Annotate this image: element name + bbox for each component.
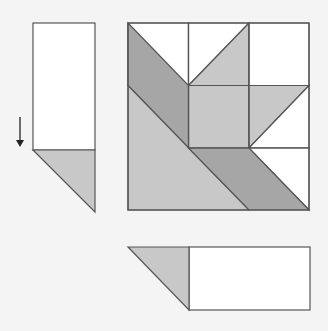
bottom-rectangle	[189, 247, 310, 310]
top-right-cell	[249, 23, 309, 86]
diagram-canvas	[0, 0, 328, 331]
quilt-block	[128, 23, 309, 210]
quilt-diagram	[0, 0, 328, 331]
left-rectangle	[33, 23, 95, 150]
center-square	[189, 86, 250, 149]
